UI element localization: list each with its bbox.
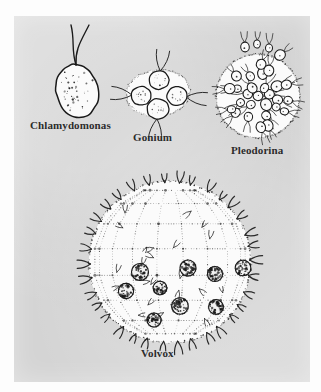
chlamydomonas-flagella — [71, 25, 89, 65]
figure-root: Chlamydomonas Gonium Pleodorina Volvox — [0, 0, 321, 392]
label-chlamydomonas: Chlamydomonas — [30, 119, 111, 131]
organism-pleodorina — [212, 32, 304, 145]
organism-chlamydomonas — [50, 59, 104, 121]
algae-illustration — [0, 0, 321, 392]
pleodorina-cell — [253, 32, 260, 49]
label-volvox: Volvox — [141, 347, 174, 359]
organism-gonium — [110, 49, 207, 140]
pleodorina-cell — [240, 32, 249, 53]
label-pleodorina: Pleodorina — [231, 144, 283, 156]
label-gonium: Gonium — [133, 131, 172, 143]
organism-volvox — [77, 171, 263, 355]
pleodorina-cell — [265, 33, 273, 52]
gonium-cell — [149, 49, 169, 89]
